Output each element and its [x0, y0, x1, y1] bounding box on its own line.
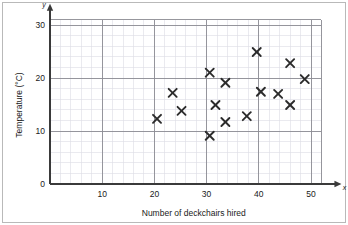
data-point — [211, 101, 219, 109]
data-point — [274, 90, 282, 98]
svg-text:30: 30 — [36, 20, 46, 30]
svg-text:x: x — [342, 184, 347, 191]
axis-lines — [47, 4, 342, 188]
data-point — [221, 79, 229, 87]
svg-text:50: 50 — [306, 189, 316, 199]
scatter-graph-figure: 10203040500102030 xyNumber of deckchairs… — [0, 0, 348, 225]
svg-text:10: 10 — [36, 126, 46, 136]
tick-labels: 10203040500102030 — [36, 20, 316, 198]
svg-text:Number of deckchairs hired: Number of deckchairs hired — [142, 208, 246, 218]
data-point — [301, 75, 309, 83]
data-point — [257, 88, 265, 96]
svg-text:0: 0 — [40, 179, 45, 189]
svg-text:40: 40 — [254, 189, 264, 199]
svg-text:30: 30 — [202, 189, 212, 199]
data-markers — [153, 48, 309, 140]
data-point — [178, 107, 186, 115]
svg-text:20: 20 — [36, 73, 46, 83]
svg-text:y: y — [41, 1, 46, 9]
data-point — [253, 48, 261, 56]
svg-text:20: 20 — [150, 189, 160, 199]
svg-text:Temperature (°C): Temperature (°C) — [14, 72, 24, 137]
plot-canvas: 10203040500102030 xyNumber of deckchairs… — [0, 0, 348, 225]
data-point — [221, 118, 229, 126]
data-point — [243, 112, 251, 120]
minor-gridlines — [50, 20, 321, 184]
svg-text:10: 10 — [97, 189, 107, 199]
